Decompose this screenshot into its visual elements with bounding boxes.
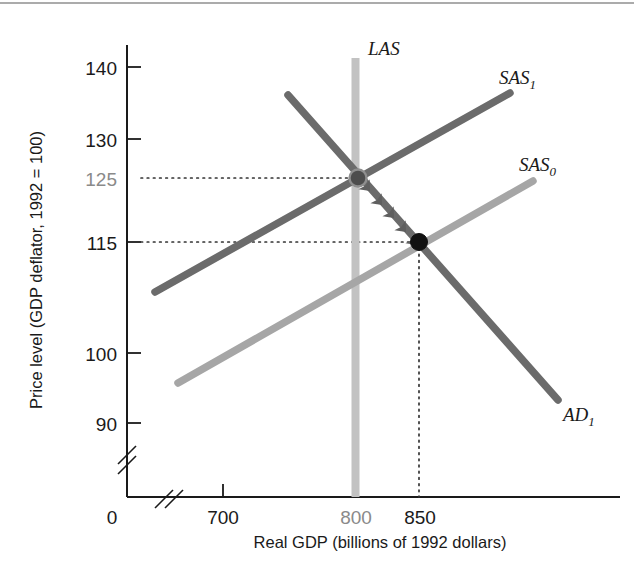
- y-tick-label-125: 125: [85, 169, 117, 190]
- y-tick-label-130: 130: [85, 130, 117, 151]
- curve-label-ad1-base: AD: [561, 404, 589, 425]
- curve-label-ad1-sub: 1: [588, 414, 595, 429]
- curve-sas1: [155, 93, 510, 292]
- chart-canvas: 140 130 125 115 100 90 0 700 800 850 Rea…: [0, 0, 634, 568]
- x-tick-label-700: 700: [207, 507, 239, 528]
- new-equilibrium-point: [350, 170, 367, 187]
- curve-label-sas1-base: SAS: [499, 67, 530, 88]
- y-tick-label-90: 90: [96, 414, 117, 435]
- y-axis-title: Price level (GDP deflator, 1992 = 100): [27, 131, 45, 409]
- curve-label-sas0: SAS0: [519, 154, 557, 179]
- initial-equilibrium-point: [411, 234, 428, 251]
- curve-label-sas0-base: SAS: [519, 154, 550, 175]
- as-ad-chart: 140 130 125 115 100 90 0 700 800 850 Rea…: [0, 0, 634, 568]
- y-tick-label-115: 115: [87, 233, 117, 254]
- x-axis-break-mark: [155, 490, 183, 508]
- curve-label-ad1: AD1: [561, 404, 595, 429]
- x-axis-title: Real GDP (billions of 1992 dollars): [254, 533, 507, 551]
- curve-label-sas1: SAS1: [499, 67, 536, 92]
- x-tick-label-850: 850: [404, 507, 436, 528]
- x-tick-label-800: 800: [340, 507, 372, 528]
- y-tick-label-100: 100: [85, 344, 117, 365]
- curve-label-sas1-sub: 1: [530, 77, 537, 92]
- curve-label-sas0-sub: 0: [550, 164, 557, 179]
- x-axis-origin-label: 0: [107, 507, 118, 528]
- y-tick-label-140: 140: [85, 58, 117, 79]
- curve-label-las: LAS: [367, 38, 400, 59]
- y-axis-ticks: [127, 67, 141, 423]
